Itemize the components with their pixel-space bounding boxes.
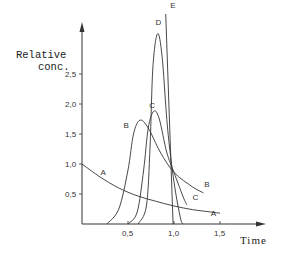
curve-d [138,34,183,224]
x-tick-label: 0,5 [122,229,134,238]
curve-label-d: D [156,18,162,27]
curve-label-b: B [204,180,209,189]
curve-label-a: A [211,209,217,218]
x-tick-label: 1,5 [214,229,226,238]
x-tick-label: 1,0 [168,229,180,238]
y-tick-label: 0,5 [65,190,77,199]
curve-b [107,120,204,224]
curve-label-c: C [192,193,198,202]
curve-label-a: A [100,168,106,177]
y-tick-label: 2,5 [65,70,77,79]
y-axis-label-line1: Relative [16,49,66,61]
y-tick-label: 1,5 [65,130,77,139]
concentration-time-chart: Relative conc. Time 0,51,01,50,51,01,52,… [0,0,287,258]
curve-label-c: C [149,101,155,110]
curves [82,14,220,224]
y-tick-label: 1,0 [65,160,77,169]
y-axis-arrow-icon [80,22,85,32]
x-axis-label: Time [240,234,267,246]
y-tick-label: 2,0 [65,100,77,109]
curve-label-b: B [123,121,128,130]
x-axis-arrow-icon [256,222,266,227]
curve-label-e: E [170,1,175,10]
